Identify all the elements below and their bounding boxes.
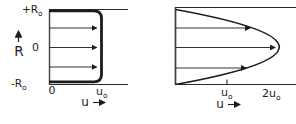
x-tick-label-2uo: 2uo [262,87,281,102]
parabolic-profile-plot: uo 2uo u [175,8,296,112]
u-axis-label: u [81,95,89,109]
flat-profile-plot: R +Ro 0 -Ro 0 uo u [11,3,128,109]
tick-label-zero: 0 [32,41,39,54]
flat-profile-curve [49,11,102,82]
x-tick-label-uo: uo [96,85,108,100]
velocity-profiles-figure: R +Ro 0 -Ro 0 uo u [0,0,296,124]
velocity-profiles-canvas: R +Ro 0 -Ro 0 uo u [0,0,296,124]
tick-label-minus-Ro: -Ro [11,77,27,92]
r-axis-label: R [14,43,23,59]
parabolic-profile-curve [176,10,280,85]
origin-label: 0 [49,84,56,97]
tick-label-plus-Ro: +Ro [22,3,43,18]
u-axis-label: u [216,97,224,111]
